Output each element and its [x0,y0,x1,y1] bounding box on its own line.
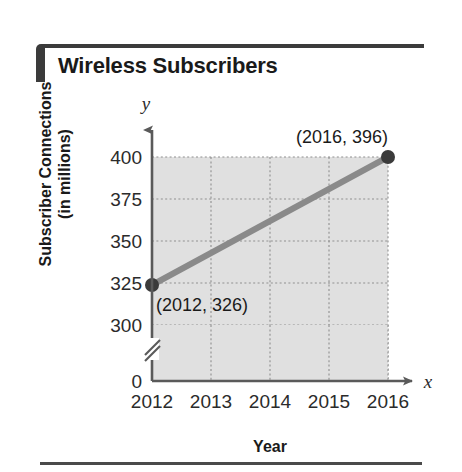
y-tick-label-375: 375 [110,189,142,210]
y-axis-break-icon [145,338,160,361]
y-tick-label-400: 400 [110,147,142,168]
x-tick-label-2012: 2012 [131,391,173,412]
annotation-2012: (2012, 326) [156,295,248,315]
origin-label: 0 [131,371,142,392]
x-axis-letter: x [423,371,433,392]
bottom-divider [40,462,422,465]
chart-figure: Wireless Subscribers Subscriber Connecti… [0,0,462,472]
x-tick-label-2013: 2013 [190,391,232,412]
y-axis-letter: y [140,93,151,114]
data-point-2016 [381,150,395,164]
y-tick-label-325: 325 [110,273,142,294]
y-tick-label-350: 350 [110,231,142,252]
plot-area: 400 375 350 325 300 0 2012 2013 2014 201… [0,0,462,472]
x-tick-label-2015: 2015 [308,391,350,412]
x-tick-label-2016: 2016 [367,391,409,412]
annotation-2016: (2016, 396) [296,127,388,147]
y-tick-label-300: 300 [110,315,142,336]
x-tick-label-2014: 2014 [249,391,292,412]
